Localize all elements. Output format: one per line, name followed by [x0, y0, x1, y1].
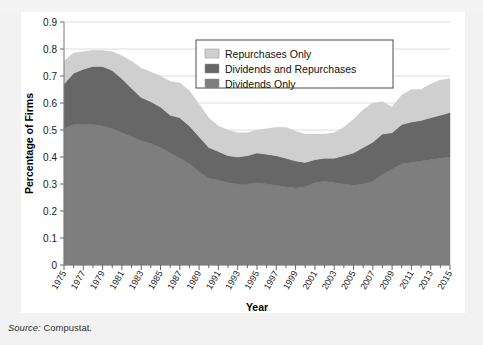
stacked-area-chart: 00.10.20.30.40.50.60.70.80.9197519771979…: [21, 12, 465, 313]
x-tick-label: 1987: [165, 269, 184, 291]
x-tick-label: 1993: [223, 269, 242, 291]
legend-swatch-0: [205, 49, 219, 58]
x-tick-label: 2011: [397, 269, 415, 291]
y-tick-label: 0.2: [43, 206, 57, 217]
legend-label-0: Repurchases Only: [225, 48, 312, 60]
y-tick-label: 0.6: [43, 98, 57, 109]
legend-swatch-2: [205, 79, 219, 88]
x-tick-label: 1985: [146, 269, 165, 291]
chart-panel: 00.10.20.30.40.50.60.70.80.9197519771979…: [21, 12, 465, 313]
x-tick-label: 2013: [416, 269, 435, 291]
x-tick-label: 1983: [127, 269, 146, 291]
x-tick-label: 1979: [88, 269, 107, 291]
x-axis-title: Year: [246, 301, 268, 313]
y-tick-label: 0.8: [43, 44, 57, 55]
x-tick-label: 1997: [262, 269, 281, 291]
y-tick-label: 0: [51, 260, 57, 271]
x-tick-label: 2015: [436, 269, 455, 291]
x-tick-label: 1981: [107, 269, 126, 291]
x-tick-label: 1977: [69, 269, 88, 291]
x-tick-label: 1991: [204, 269, 223, 291]
y-tick-label: 0.1: [43, 233, 57, 244]
x-tick-label: 2007: [358, 269, 377, 291]
x-tick-label: 1999: [281, 269, 300, 291]
source-label: Source:: [8, 322, 41, 333]
page-top-cut-strip: [0, 0, 483, 12]
legend-label-2: Dividends Only: [225, 78, 296, 90]
source-note: Source: Compustat.: [8, 322, 92, 333]
y-tick-label: 0.9: [43, 17, 57, 28]
x-tick-label: 1975: [50, 269, 69, 291]
chart-legend: Repurchases OnlyDividends and Repurchase…: [196, 40, 393, 90]
y-tick-label: 0.4: [43, 152, 57, 163]
x-tick-label: 2001: [300, 269, 319, 291]
x-tick-label: 1989: [185, 269, 204, 291]
x-tick-label: 2009: [378, 269, 397, 291]
y-axis-title: Percentage of Firms: [23, 93, 35, 194]
x-tick-label: 1995: [243, 269, 262, 291]
legend-label-1: Dividends and Repurchases: [225, 63, 356, 75]
y-tick-label: 0.3: [43, 179, 57, 190]
x-tick-label: 2003: [320, 269, 339, 291]
y-tick-label: 0.5: [43, 125, 57, 136]
chart-plot-area: 00.10.20.30.40.50.60.70.80.9197519771979…: [21, 12, 465, 313]
legend-swatch-1: [205, 64, 219, 73]
y-tick-label: 0.7: [43, 71, 57, 82]
source-value: Compustat.: [43, 322, 92, 333]
x-tick-label: 2005: [339, 269, 358, 291]
